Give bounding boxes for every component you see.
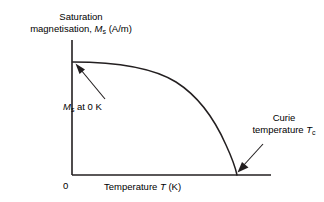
ms-annotation-arrow <box>76 64 106 100</box>
y-axis-title-prefix: magnetisation, <box>30 23 94 34</box>
x-axis-title-prefix: Temperature <box>104 181 160 192</box>
y-axis-units: (A/m) <box>106 23 132 34</box>
curie-annotation-arrow <box>238 144 264 173</box>
ms-annotation-text: at 0 K <box>74 101 101 112</box>
origin-tick-label: 0 <box>63 180 68 192</box>
magnetisation-curve <box>73 62 238 175</box>
magnetisation-temperature-figure: Saturation magnetisation, Ms (A/m) Tempe… <box>0 0 324 202</box>
curie-annotation-subscript: c <box>312 129 316 136</box>
ms-at-zero-annotation: Ms at 0 K <box>63 101 102 116</box>
curie-annotation-line1: Curie <box>273 112 296 123</box>
curie-annotation-prefix: temperature <box>252 124 306 135</box>
y-axis-title-line1: Saturation <box>59 11 102 22</box>
ms-annotation-symbol: M <box>63 101 71 112</box>
x-axis-title: Temperature T (K) <box>104 181 181 193</box>
curie-temperature-annotation: Curie temperature Tc <box>246 112 322 138</box>
x-axis-units: (K) <box>166 181 181 192</box>
y-axis-title: Saturation magnetisation, Ms (A/m) <box>0 11 162 37</box>
y-axis-symbol: M <box>95 23 103 34</box>
